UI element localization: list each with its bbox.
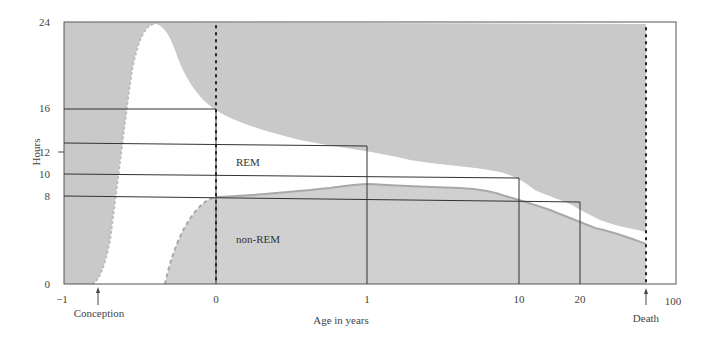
x-tick-label-20: 20	[575, 293, 587, 305]
x-tick-label-minus1: −1	[56, 293, 68, 305]
conception-arrowhead-icon	[96, 287, 100, 293]
y-axis-title: Hours	[30, 139, 42, 166]
y-tick-label-24: 24	[39, 16, 51, 28]
death-annotation: Death	[633, 288, 660, 324]
x-tick-label-10: 10	[514, 293, 526, 305]
death-arrowhead-icon	[644, 288, 648, 294]
y-tick-label-0: 0	[45, 278, 51, 290]
y-tick-label-16: 16	[39, 102, 51, 114]
x-tick-label-100: 100	[665, 295, 682, 307]
sleep-chart: 24 16 12 10 8 0 Hours −1 0 1 10 20 100 A…	[0, 0, 714, 341]
death-label: Death	[633, 312, 660, 324]
y-tick-label-8: 8	[45, 190, 51, 202]
x-axis-title: Age in years	[313, 314, 369, 326]
rem-label: REM	[236, 156, 260, 168]
y-tick-label-10: 10	[39, 168, 51, 180]
x-tick-label-0: 0	[213, 293, 219, 305]
x-tick-label-1: 1	[364, 293, 370, 305]
conception-label: Conception	[74, 307, 125, 319]
nonrem-label: non-REM	[236, 233, 280, 245]
conception-annotation: Conception	[74, 287, 125, 319]
